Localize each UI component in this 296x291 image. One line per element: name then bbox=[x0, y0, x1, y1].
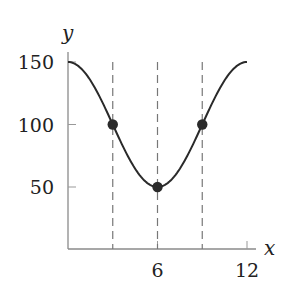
x-tick-label: 6 bbox=[151, 259, 163, 281]
y-tick-label: 50 bbox=[30, 176, 54, 198]
chart-svg: 50100150612 y x bbox=[0, 0, 296, 291]
data-point bbox=[152, 182, 162, 192]
x-axis-label: x bbox=[264, 236, 275, 260]
y-tick-label: 150 bbox=[18, 51, 54, 73]
tick-labels: 50100150612 bbox=[18, 51, 259, 281]
x-tick-label: 12 bbox=[235, 259, 259, 281]
dashed-lines bbox=[113, 62, 203, 249]
data-point bbox=[197, 119, 207, 129]
y-tick-label: 100 bbox=[18, 114, 54, 136]
data-point bbox=[108, 119, 118, 129]
y-axis-label: y bbox=[61, 21, 74, 45]
chart: 50100150612 y x bbox=[0, 0, 296, 291]
